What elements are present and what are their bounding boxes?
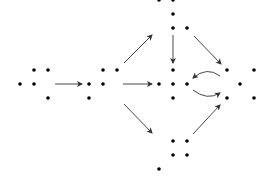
- node-bottom-cluster: [157, 139, 189, 171]
- node-right-cluster: [225, 68, 256, 100]
- dot: [18, 82, 22, 86]
- dot: [238, 82, 242, 86]
- dot: [185, 139, 189, 143]
- dot: [185, 26, 189, 30]
- node-left-cluster: [18, 68, 50, 100]
- diagram-canvas: [0, 0, 266, 177]
- dot: [32, 82, 36, 86]
- dot: [101, 82, 105, 86]
- dot: [171, 68, 175, 72]
- dot: [252, 68, 256, 72]
- dot: [171, 82, 175, 86]
- dot: [171, 0, 175, 2]
- dot: [171, 96, 175, 100]
- curved-arrow-n6-to-n4: [193, 71, 220, 78]
- node-top-cluster: [157, 0, 189, 30]
- node-second-cluster: [87, 68, 119, 100]
- arrow-n3-to-n6: [194, 36, 221, 64]
- dot: [46, 96, 50, 100]
- node-center-cluster: [157, 68, 189, 100]
- dot: [157, 82, 161, 86]
- dot: [87, 82, 91, 86]
- dot: [32, 68, 36, 72]
- dot: [185, 82, 189, 86]
- edges-group: [55, 35, 221, 134]
- dot: [185, 153, 189, 157]
- dot: [171, 153, 175, 157]
- dot: [157, 167, 161, 171]
- dot: [46, 68, 50, 72]
- arrow-n5-to-n6: [193, 105, 220, 134]
- nodes-group: [18, 0, 256, 171]
- arrow-n2-to-n5: [124, 104, 152, 133]
- dot: [252, 96, 256, 100]
- dot: [171, 139, 175, 143]
- dot: [225, 96, 229, 100]
- dot: [157, 0, 161, 2]
- dot: [115, 68, 119, 72]
- dot: [87, 96, 91, 100]
- dot: [101, 68, 105, 72]
- dot: [225, 68, 229, 72]
- dot: [171, 26, 175, 30]
- dot: [171, 12, 175, 16]
- curved-arrow-n4-to-n6: [193, 90, 220, 96]
- arrow-n2-to-n3: [124, 35, 152, 63]
